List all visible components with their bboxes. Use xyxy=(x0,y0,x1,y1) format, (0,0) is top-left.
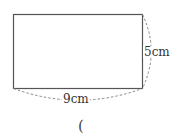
width-label: 9cm xyxy=(62,93,90,105)
answer-parenthesis: ( xyxy=(78,119,84,134)
height-label: 5cm xyxy=(143,46,171,58)
rectangle-diagram xyxy=(0,0,191,140)
rectangle xyxy=(14,15,143,89)
